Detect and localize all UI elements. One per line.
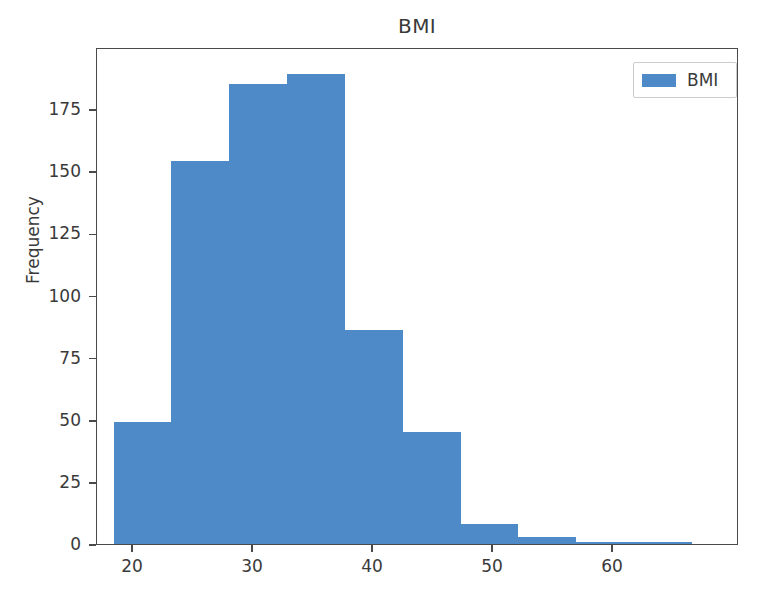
x-tick-label-text: 40 [361,556,383,576]
y-tick-mark [89,420,96,422]
chart-legend: BMI [633,62,737,98]
x-tick-mark [491,545,493,552]
histogram-bar [114,422,172,544]
y-tick-label-text: 125 [49,223,81,243]
chart-figure: BMI Frequency 0255075100125150175 203040… [0,0,759,606]
histogram-bar [171,161,229,544]
legend-label-bmi: BMI [687,70,718,90]
x-tick-mark [371,545,373,552]
x-tick-mark [611,545,613,552]
histogram-bar [576,542,635,544]
y-tick-mark [89,171,96,173]
plot-area [96,48,738,545]
y-tick-mark [89,482,96,484]
y-tick-label-text: 150 [49,161,81,181]
chart-title: BMI [96,14,738,38]
x-tick-mark [251,545,253,552]
y-tick-mark [89,109,96,111]
y-tick-label-text: 25 [59,472,81,492]
histogram-bar [403,432,461,544]
y-tick-label-text: 75 [59,348,81,368]
histogram-bar [635,542,693,544]
x-tick-label-text: 60 [601,556,623,576]
y-tick-mark [89,358,96,360]
x-tick-label-text: 50 [481,556,503,576]
histogram-bar [229,84,287,544]
x-tick-label-text: 20 [121,556,143,576]
x-tick-mark [131,545,133,552]
histogram-bar [287,74,346,544]
y-tick-label-text: 0 [70,534,81,554]
x-tick-label-text: 30 [241,556,263,576]
histogram-bar [461,524,519,544]
y-tick-label-text: 100 [49,286,81,306]
y-tick-label-text: 50 [59,410,81,430]
y-tick-mark [89,296,96,298]
histogram-bar [345,330,403,544]
y-tick-mark [89,544,96,546]
y-tick-label-text: 175 [49,99,81,119]
histogram-bar [518,537,576,544]
y-axis-label: Frequency [23,175,43,305]
y-tick-mark [89,234,96,236]
legend-swatch-bmi [642,74,676,87]
